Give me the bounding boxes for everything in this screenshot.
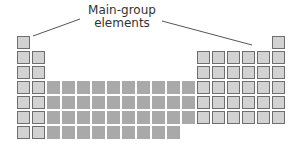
main-group-cell: [242, 66, 255, 79]
transition-metal-cell: [77, 96, 90, 109]
transition-metal-cell: [152, 96, 165, 109]
transition-metal-cell: [92, 96, 105, 109]
main-group-cell: [212, 111, 225, 124]
main-group-cell: [272, 81, 285, 94]
main-group-cell: [17, 36, 30, 49]
main-group-cell: [227, 51, 240, 64]
main-group-cell: [197, 96, 210, 109]
main-group-cell: [212, 51, 225, 64]
main-group-cell: [212, 81, 225, 94]
transition-metal-cell: [47, 96, 60, 109]
transition-metal-cell: [137, 96, 150, 109]
transition-metal-cell: [152, 81, 165, 94]
transition-metal-cell: [122, 111, 135, 124]
main-group-cell: [197, 111, 210, 124]
transition-metal-cell: [62, 111, 75, 124]
transition-metal-cell: [122, 126, 135, 139]
transition-metal-cell: [47, 126, 60, 139]
main-group-cell: [17, 126, 30, 139]
transition-metal-cell: [122, 81, 135, 94]
main-group-cell: [32, 51, 45, 64]
transition-metal-cell: [182, 96, 195, 109]
transition-metal-cell: [47, 81, 60, 94]
transition-metal-cell: [122, 96, 135, 109]
transition-metal-cell: [107, 126, 120, 139]
main-group-cell: [227, 111, 240, 124]
main-group-cell: [32, 81, 45, 94]
transition-metal-cell: [137, 81, 150, 94]
transition-metal-cell: [182, 111, 195, 124]
transition-metal-cell: [167, 126, 180, 139]
main-group-cell: [17, 51, 30, 64]
main-group-cell: [212, 96, 225, 109]
main-group-cell: [272, 51, 285, 64]
transition-metal-cell: [47, 111, 60, 124]
transition-metal-cell: [77, 111, 90, 124]
transition-metal-cell: [107, 111, 120, 124]
transition-metal-cell: [152, 126, 165, 139]
transition-metal-cell: [167, 111, 180, 124]
main-group-cell: [212, 66, 225, 79]
transition-metal-cell: [92, 111, 105, 124]
transition-metal-cell: [167, 81, 180, 94]
transition-metal-cell: [62, 96, 75, 109]
transition-metal-cell: [107, 96, 120, 109]
main-group-cell: [257, 51, 270, 64]
callout-line-right: [162, 21, 252, 45]
main-group-cell: [257, 111, 270, 124]
main-group-cell: [272, 66, 285, 79]
transition-metal-cell: [182, 81, 195, 94]
main-group-cell: [242, 81, 255, 94]
main-group-cell: [257, 66, 270, 79]
transition-metal-cell: [62, 126, 75, 139]
main-group-cell: [257, 81, 270, 94]
transition-metal-cell: [167, 96, 180, 109]
transition-metal-cell: [92, 81, 105, 94]
main-group-cell: [272, 111, 285, 124]
main-group-cell: [257, 96, 270, 109]
main-group-cell: [32, 126, 45, 139]
transition-metal-cell: [137, 126, 150, 139]
callout-line2: elements: [70, 17, 174, 30]
main-group-cell: [242, 96, 255, 109]
main-group-cell: [32, 66, 45, 79]
main-group-cell: [17, 96, 30, 109]
transition-metal-cell: [62, 81, 75, 94]
main-group-cell: [32, 96, 45, 109]
main-group-cell: [17, 111, 30, 124]
main-group-cell: [227, 96, 240, 109]
main-group-cell: [227, 66, 240, 79]
main-group-cell: [197, 81, 210, 94]
main-group-cell: [242, 51, 255, 64]
main-group-callout-label: Main-group elements: [70, 4, 174, 30]
main-group-cell: [272, 96, 285, 109]
transition-metal-cell: [107, 81, 120, 94]
main-group-cell: [17, 81, 30, 94]
transition-metal-cell: [137, 111, 150, 124]
main-group-cell: [17, 66, 30, 79]
transition-metal-cell: [77, 81, 90, 94]
transition-metal-cell: [92, 126, 105, 139]
transition-metal-cell: [152, 111, 165, 124]
main-group-cell: [197, 51, 210, 64]
main-group-cell: [242, 111, 255, 124]
main-group-cell: [227, 81, 240, 94]
main-group-cell: [197, 66, 210, 79]
transition-metal-cell: [77, 126, 90, 139]
main-group-cell: [272, 36, 285, 49]
main-group-cell: [32, 111, 45, 124]
